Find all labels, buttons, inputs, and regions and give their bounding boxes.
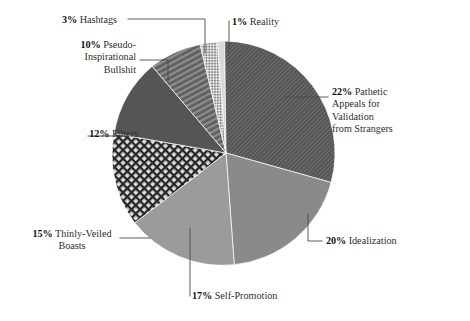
slice-pct-reality: 1%: [232, 16, 247, 27]
slice-label-pathetic-appeals: 22% Pathetic Appeals for Validation from…: [332, 86, 464, 136]
slice-pct-filters: 12%: [89, 128, 109, 139]
slice-name-pseudo-line1: Pseudo-: [103, 39, 136, 50]
slice-name-pathetic-line4: from Strangers: [332, 123, 464, 135]
slice-label-reality: 1% Reality: [232, 16, 279, 28]
slice-label-pseudo-inspirational-bullshit: 10% Pseudo- Inspirational Bullshit: [18, 39, 136, 76]
slice-name-reality: Reality: [250, 16, 279, 27]
slice-name-pathetic-line2: Appeals for: [332, 98, 464, 110]
slice-name-pseudo-line2: Inspirational: [18, 51, 136, 63]
slice-pct-self-promotion: 17%: [192, 290, 212, 301]
slice-name-self-promotion: Self-Promotion: [215, 290, 278, 301]
slice-label-thinly-veiled-boasts: 15% Thinly-Veiled Boasts: [6, 228, 138, 253]
slice-name-filters: Filters: [112, 128, 138, 139]
slice-name-pathetic-line3: Validation: [332, 111, 464, 123]
slice-label-pathetic-line1: 22% Pathetic: [332, 86, 464, 98]
slice-pct-idealization: 20%: [326, 235, 346, 246]
slice-name-boasts-line1: Thinly-Veiled: [55, 228, 112, 239]
slice-name-boasts-line2: Boasts: [6, 240, 138, 252]
slice-pct-hashtags: 3%: [62, 14, 77, 25]
slice-label-idealization: 20% Idealization: [326, 235, 397, 247]
slice-label-self-promotion: 17% Self-Promotion: [192, 290, 277, 302]
slice-pct-pathetic: 22%: [332, 86, 352, 97]
slice-pct-boasts: 15%: [32, 228, 52, 239]
slice-name-hashtags: Hashtags: [80, 14, 117, 25]
slice-label-pseudo-line1: 10% Pseudo-: [18, 39, 136, 51]
pie-slices: [112, 41, 335, 265]
pie-chart: 1% Reality 3% Hashtags 10% Pseudo- Inspi…: [0, 0, 470, 321]
slice-label-filters: 12% Filters: [10, 128, 138, 140]
slice-name-pseudo-line3: Bullshit: [18, 64, 136, 76]
slice-label-boasts-line1: 15% Thinly-Veiled: [6, 228, 138, 240]
slice-name-idealization: Idealization: [349, 235, 397, 246]
slice-label-hashtags: 3% Hashtags: [62, 14, 117, 26]
slice-name-pathetic-line1: Pathetic: [355, 86, 388, 97]
slice-pct-pseudo: 10%: [81, 39, 101, 50]
